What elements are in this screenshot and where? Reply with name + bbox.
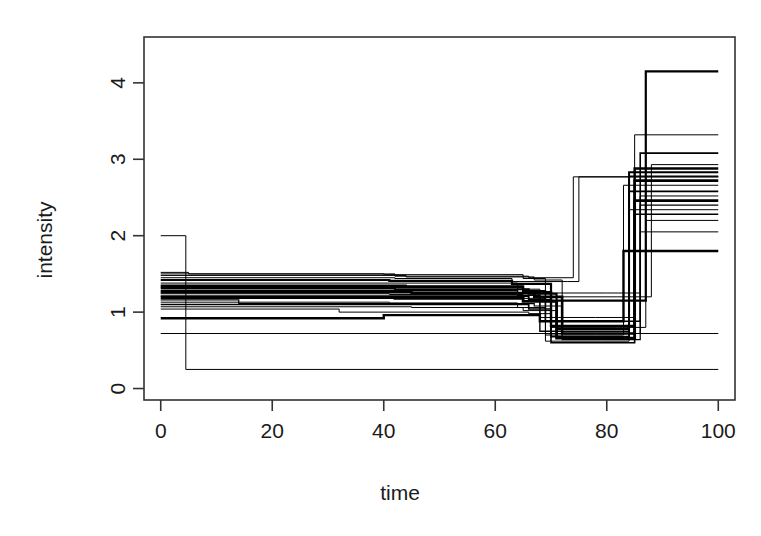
x-tick-label-80: 80 xyxy=(595,419,618,442)
y-tick-label-3: 3 xyxy=(107,153,130,165)
step-plot-svg: 020406080100 01234 time intensity xyxy=(0,0,761,536)
x-tick-label-100: 100 xyxy=(701,419,736,442)
x-tick-label-0: 0 xyxy=(155,419,167,442)
y-tick-label-0: 0 xyxy=(107,383,130,395)
y-tick-label-2: 2 xyxy=(107,230,130,242)
figure-container: 020406080100 01234 time intensity xyxy=(0,0,761,536)
x-tick-label-40: 40 xyxy=(372,419,395,442)
y-tick-label-4: 4 xyxy=(107,77,130,89)
y-axis-title: intensity xyxy=(33,201,56,279)
y-tick-label-1: 1 xyxy=(107,306,130,318)
x-tick-label-60: 60 xyxy=(484,419,507,442)
x-axis-title: time xyxy=(380,481,420,504)
x-tick-label-20: 20 xyxy=(261,419,284,442)
